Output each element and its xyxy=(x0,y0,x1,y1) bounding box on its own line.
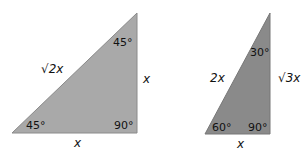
t1-angle-top: 45° xyxy=(113,37,133,48)
t1-angle-bottom-left: 45° xyxy=(26,120,46,131)
t2-angle-bottom-left: 60° xyxy=(212,122,232,133)
t1-hypotenuse-label: √2x xyxy=(41,63,63,75)
triangle-45-45-90 xyxy=(12,13,137,133)
t1-base-label: x xyxy=(74,137,81,149)
t2-angle-top: 30° xyxy=(250,47,270,58)
t1-angle-right: 90° xyxy=(114,120,134,131)
t2-base-label: x xyxy=(237,138,244,150)
t1-vertical-label: x xyxy=(143,73,150,85)
t2-angle-right: 90° xyxy=(248,122,268,133)
t2-vertical-label: √3x xyxy=(278,72,300,84)
t2-hypotenuse-label: 2x xyxy=(210,72,225,84)
